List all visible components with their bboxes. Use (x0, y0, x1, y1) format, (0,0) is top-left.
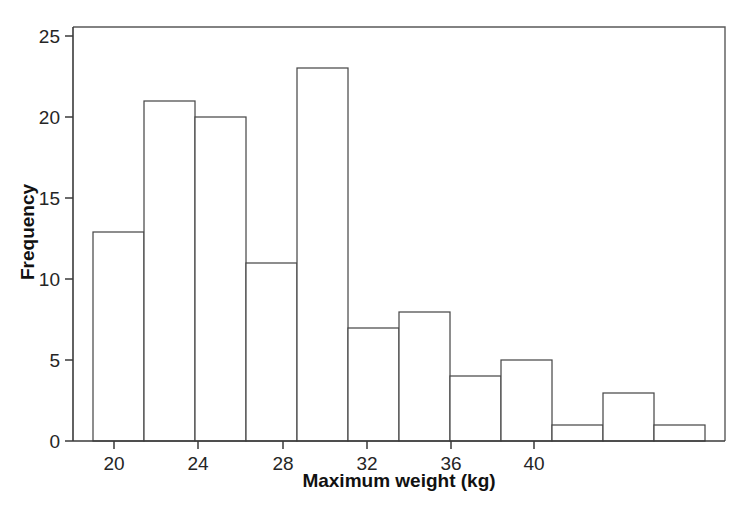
y-axis-title: Frequency (17, 184, 38, 281)
histogram-bar (348, 328, 399, 441)
y-tick-label: 15 (39, 188, 60, 209)
histogram-bar (144, 101, 195, 441)
y-tick-label: 5 (49, 350, 60, 371)
histogram-plot: 202428323640 0510152025 Maximum weight (… (0, 0, 750, 511)
histogram-bar (603, 393, 654, 441)
y-tick-label: 0 (49, 431, 60, 452)
x-tick-label: 20 (103, 453, 124, 474)
histogram-bar (654, 425, 705, 441)
histogram-bar (246, 263, 297, 441)
histogram-bar (399, 312, 450, 441)
histogram-bar (93, 232, 144, 441)
x-axis-title: Maximum weight (kg) (302, 470, 495, 491)
histogram-bar (297, 68, 348, 441)
histogram-bar (501, 360, 552, 441)
x-tick-label: 28 (272, 453, 293, 474)
histogram-figure: 202428323640 0510152025 Maximum weight (… (0, 0, 750, 511)
x-tick-label: 24 (187, 453, 209, 474)
y-tick-label: 10 (39, 269, 60, 290)
histogram-bar (450, 376, 501, 441)
y-tick-label: 25 (39, 26, 60, 47)
histogram-bar (552, 425, 603, 441)
histogram-bar (195, 117, 246, 441)
x-tick-label: 40 (523, 453, 544, 474)
y-tick-label: 20 (39, 107, 60, 128)
